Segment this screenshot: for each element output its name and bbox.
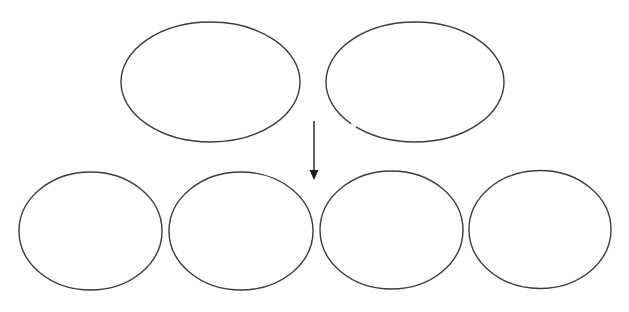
arrow-head <box>310 170 319 180</box>
top-row <box>121 22 504 142</box>
top-ellipse-1 <box>121 22 300 142</box>
bottom-ellipse-4 <box>469 171 611 289</box>
diagram-svg <box>0 0 629 312</box>
bottom-ellipse-1 <box>19 172 162 290</box>
bottom-ellipse-3 <box>320 171 463 289</box>
outline-gap <box>351 124 356 127</box>
down-arrow-icon <box>310 121 319 180</box>
bottom-ellipse-2 <box>169 172 313 290</box>
diagram-canvas <box>0 0 629 312</box>
bottom-row <box>19 171 611 291</box>
